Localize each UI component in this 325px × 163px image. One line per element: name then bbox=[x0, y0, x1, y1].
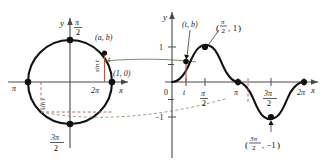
sine-label-min-close: ) bbox=[277, 140, 280, 150]
circle-label-point-1-0: (1, 0) bbox=[113, 69, 131, 78]
circle-label-pi-over-2-num: π bbox=[75, 18, 80, 27]
sine-label-min-sep: , bbox=[262, 141, 264, 150]
sine-ylabel-1: 1 bbox=[159, 43, 163, 52]
sine-leader-min-arrow bbox=[268, 120, 273, 125]
circle-x-axis-arrow bbox=[121, 79, 128, 85]
green-connector-upper bbox=[104, 59, 196, 62]
circle-label-pi: π bbox=[12, 84, 17, 93]
green-connector-lower bbox=[41, 98, 228, 117]
sine-xlabel-pi-over-2-den: 2 bbox=[202, 99, 206, 108]
sine-label-max-value: 1 bbox=[233, 24, 237, 33]
sine-label-max-close: ) bbox=[238, 23, 241, 33]
circle-label-sin-t-upper: sin t bbox=[93, 59, 101, 72]
sine-label-min-value: −1 bbox=[267, 141, 276, 150]
circle-label-pi-over-2: π 2 bbox=[74, 18, 82, 37]
sine-leader-t-b bbox=[187, 30, 190, 57]
circle-point-pi bbox=[25, 79, 32, 86]
sine-point-min bbox=[268, 114, 274, 120]
circle-label-point-ab: (a, b) bbox=[95, 33, 113, 42]
sine-xlabel-pi-over-2: π 2 bbox=[200, 89, 208, 108]
circle-point-3pi-over-2 bbox=[67, 121, 74, 128]
circle-y-axis-label: y bbox=[59, 18, 64, 28]
circle-label-3pi-over-2: 3π 2 bbox=[50, 133, 64, 153]
circle-label-3pi-over-2-num: 3π bbox=[50, 133, 60, 142]
sine-point-max bbox=[202, 44, 208, 50]
sine-xlabel-pi: π bbox=[234, 88, 239, 97]
sine-label-point-t-b: (t, b) bbox=[182, 20, 198, 29]
sine-label-max-num: π bbox=[221, 18, 225, 26]
sine-leader-t-b-arrow bbox=[184, 55, 189, 60]
sine-xlabel-t: t bbox=[183, 88, 186, 97]
sine-x-axis-label: x bbox=[310, 85, 315, 95]
sine-xlabel-3pi-over-2: 3π 2 bbox=[263, 89, 277, 108]
circle-point-2pi bbox=[109, 79, 116, 86]
sine-ylabel-neg1: −1 bbox=[155, 113, 164, 122]
sine-xlabel-pi-over-2-num: π bbox=[201, 89, 206, 98]
circle-label-pi-over-2-den: 2 bbox=[76, 28, 80, 37]
figure-canvas: x y π 2 π 2π 3π 2 (a, b) (1, 0) bbox=[0, 0, 325, 163]
sine-y-axis-arrow bbox=[169, 12, 175, 19]
sine-x-axis-arrow bbox=[311, 79, 318, 85]
circle-label-2pi: 2π bbox=[91, 86, 100, 95]
sine-y-axis-label: y bbox=[162, 12, 167, 22]
sine-label-min-den: 2 bbox=[252, 144, 256, 152]
sine-xlabel-3pi-over-2-den: 2 bbox=[267, 99, 271, 108]
sine-label-max-den: 2 bbox=[222, 27, 226, 35]
circle-point-ab bbox=[102, 50, 107, 55]
sine-label-max-point: ( π 2 , 1 ) bbox=[216, 18, 241, 35]
sine-point-pi bbox=[235, 79, 241, 85]
circle-label-3pi-over-2-den: 2 bbox=[54, 144, 58, 153]
sine-xlabel-2pi: 2π bbox=[297, 88, 306, 97]
circle-label-arc-t: t bbox=[108, 55, 111, 64]
unit-circle-panel: x y π 2 π 2π 3π 2 (a, b) (1, 0) bbox=[8, 18, 228, 153]
sine-label-min-point: ( 3π 2 , −1 ) bbox=[245, 135, 280, 152]
sine-origin-label: 0 bbox=[164, 88, 168, 97]
sine-label-max-open: ( bbox=[216, 23, 219, 33]
sine-xlabel-3pi-over-2-num: 3π bbox=[263, 89, 273, 98]
circle-label-sin-t-lower: sin t bbox=[39, 97, 47, 110]
circle-y-axis-arrow bbox=[67, 18, 73, 25]
sine-graph-panel: x y 0 1 −1 t π 2 π 3π 2 bbox=[155, 12, 318, 158]
circle-point-pi-over-2 bbox=[67, 37, 74, 44]
sine-point-2pi bbox=[301, 79, 307, 85]
sine-function-figure: x y π 2 π 2π 3π 2 (a, b) (1, 0) bbox=[0, 0, 325, 163]
circle-x-axis-label: x bbox=[118, 85, 123, 95]
sine-label-max-sep: , bbox=[228, 24, 230, 33]
sine-label-min-num: 3π bbox=[249, 135, 258, 143]
sine-label-min-open: ( bbox=[245, 140, 248, 150]
sine-point-t-b bbox=[183, 59, 189, 65]
